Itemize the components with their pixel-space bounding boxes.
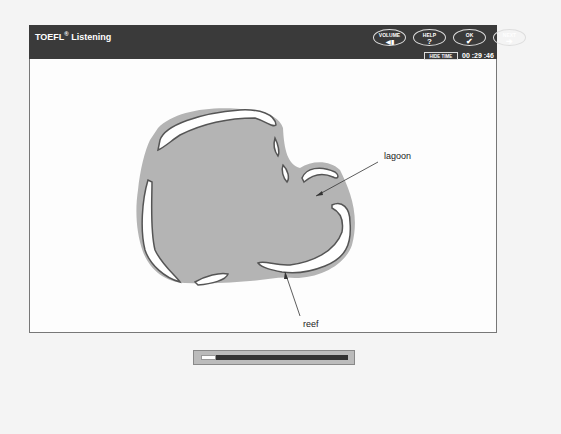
reef-label: reef [303, 319, 319, 329]
audio-progress-bar [193, 350, 355, 365]
lagoon-label: lagoon [384, 151, 411, 161]
atoll-diagram [0, 0, 561, 434]
progress-fill [201, 355, 216, 360]
progress-track [201, 355, 348, 360]
